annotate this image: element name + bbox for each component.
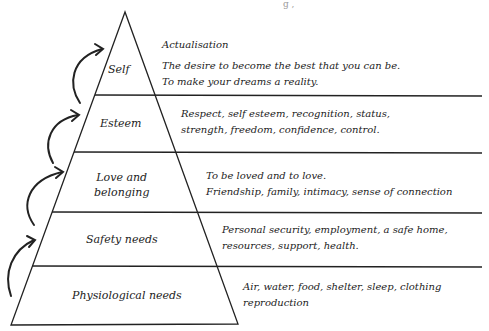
arrow-physiological-to-safety-icon [8,240,34,296]
divider-love-safety [52,212,482,213]
level-label-self: Self [108,62,130,77]
level-label-physiological: Physiological needs [72,288,182,303]
level-label-love-belonging: Love and belonging [94,170,149,200]
esteem-description: Respect, self esteem, recognition, statu… [181,106,390,138]
divider-self-esteem [95,95,482,96]
arrow-love-to-esteem-icon [48,115,78,163]
love-description: To be loved and to love. Friendship, fam… [206,168,452,200]
divider-esteem-love [74,152,482,153]
self-heading: Actualisation [162,37,228,53]
level-label-esteem: Esteem [100,116,142,131]
level-label-safety: Safety needs [86,232,158,247]
divider-safety-physiological [32,266,482,267]
physiological-description: Air, water, food, shelter, sleep, clothi… [243,279,441,311]
arrow-icons [8,44,103,296]
svg-text:g ,: g , [283,0,294,9]
safety-description: Personal security, employment, a safe ho… [222,222,448,254]
self-description: The desire to become the best that you c… [162,58,400,90]
